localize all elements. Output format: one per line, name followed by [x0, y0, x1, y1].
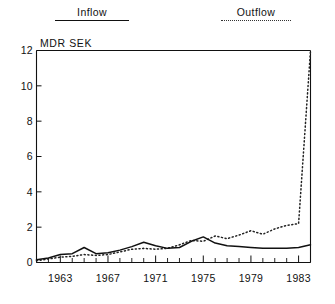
y-axis-tick-label: 0: [27, 256, 33, 268]
y-axis-tick-label: 8: [27, 115, 33, 127]
chart-container: Inflow Outflow MDR SEK 024681012 1963196…: [0, 0, 335, 304]
y-axis-ticks: [37, 51, 42, 263]
x-axis-tick-label: 1983: [286, 272, 311, 284]
y-axis-tick-label: 4: [27, 186, 33, 198]
x-axis-tick-label: 1979: [239, 272, 264, 284]
y-axis-tick-label: 12: [21, 44, 33, 56]
x-axis-tick-label: 1971: [143, 272, 168, 284]
y-axis-tick-label: 6: [27, 150, 33, 162]
data-series-inflow: [37, 237, 311, 260]
x-axis-tick-label: 1975: [191, 272, 216, 284]
axis-frame: [37, 51, 311, 263]
x-axis-tick-labels: 196319671971197519791983: [48, 272, 311, 284]
x-axis-tick-label: 1963: [48, 272, 73, 284]
y-axis-tick-label: 10: [21, 80, 33, 92]
data-series-outflow: [37, 51, 311, 261]
x-axis-tick-label: 1967: [96, 272, 121, 284]
x-axis-ticks: [37, 256, 311, 263]
plot-area: 024681012 196319671971197519791983: [0, 0, 335, 304]
y-axis-tick-labels: 024681012: [21, 44, 33, 268]
y-axis-tick-label: 2: [27, 221, 33, 233]
